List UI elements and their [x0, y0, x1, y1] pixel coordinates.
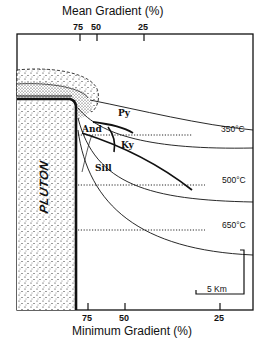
phase-label-andalusite: And: [82, 124, 102, 134]
top-axis-title: Mean Gradient (%): [62, 4, 163, 18]
bottom-tick-50: 50: [119, 313, 129, 323]
bottom-tick-75: 75: [82, 313, 92, 323]
phase-label-kyanite: Ky: [121, 140, 134, 150]
isotherm-label-350: 350°C: [221, 124, 245, 134]
phase-label-pyrophyllite: Py: [118, 108, 130, 118]
bottom-axis-title: Minimum Gradient (%): [72, 324, 192, 338]
top-axis-ticks: [80, 34, 144, 41]
isotherm-label-500: 500°C: [222, 175, 246, 185]
top-tick-75: 75: [73, 22, 83, 32]
pluton-label: PLUTON: [37, 156, 51, 219]
bottom-axis-ticks: [88, 303, 220, 310]
phase-label-sillimanite: Sill: [95, 163, 112, 173]
pyrophyllite-boundary: [108, 127, 115, 152]
top-tick-50: 50: [91, 22, 101, 32]
ky-sill-boundary: [82, 133, 192, 190]
top-tick-25: 25: [138, 22, 148, 32]
scale-bar-label: 5 Km: [207, 284, 227, 294]
isotherm-650: [78, 130, 253, 255]
bottom-tick-25: 25: [214, 313, 224, 323]
isotherm-label-650: 650°C: [222, 220, 246, 230]
dotted-reference-lines: [78, 135, 205, 230]
